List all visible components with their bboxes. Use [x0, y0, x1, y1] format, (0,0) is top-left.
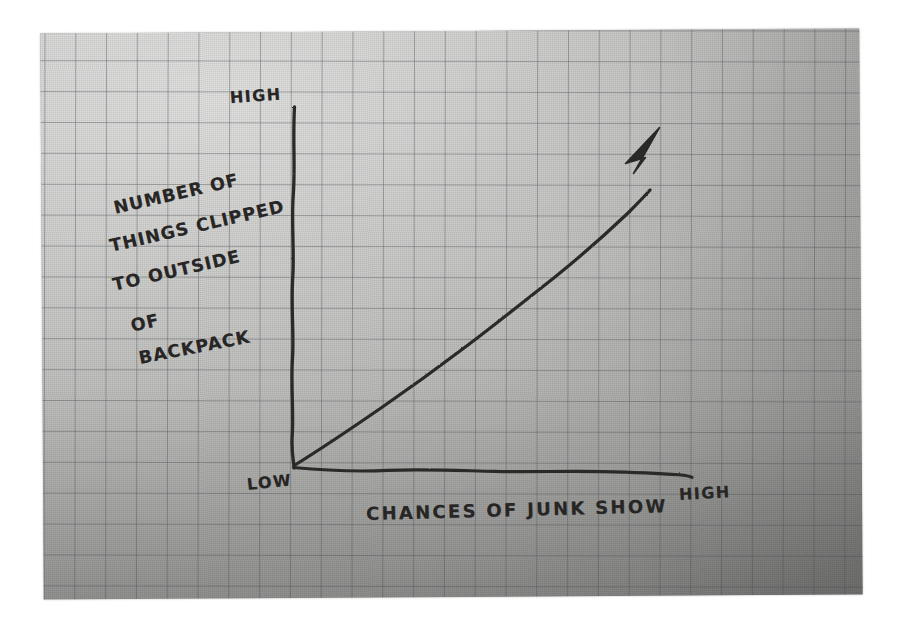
x-axis-high-label: HIGH [679, 484, 731, 503]
screenshot-root: NUMBER OF THINGS CLIPPED TO OUTSIDE OF B… [0, 0, 901, 631]
y-axis-high-label: HIGH [229, 86, 281, 106]
x-axis-low-label: LOW [246, 472, 293, 493]
